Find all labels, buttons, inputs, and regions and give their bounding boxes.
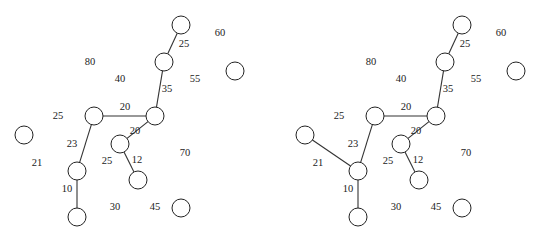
weight-label: 21: [313, 157, 324, 168]
weight-label: 55: [471, 73, 482, 84]
weight-label: 12: [413, 154, 424, 165]
weight-label: 35: [443, 83, 454, 94]
weight-label: 60: [496, 27, 507, 38]
background: [0, 0, 534, 235]
node-E: [15, 126, 33, 144]
weight-label: 20: [411, 125, 422, 136]
node-J: [172, 199, 190, 217]
weight-label: 55: [190, 73, 201, 84]
node-D: [85, 107, 103, 125]
weight-label: 25: [460, 38, 471, 49]
weight-label: 25: [383, 155, 394, 166]
weight-label: 30: [110, 201, 121, 212]
weight-label: 23: [348, 138, 359, 149]
weight-label: 40: [396, 73, 407, 84]
node-I: [349, 208, 367, 226]
weight-label: 20: [120, 101, 131, 112]
node-B: [436, 53, 454, 71]
weight-label: 70: [461, 147, 472, 158]
node-I: [68, 208, 86, 226]
weight-label: 10: [62, 183, 73, 194]
weight-label: 45: [150, 201, 161, 212]
weight-label: 21: [32, 157, 43, 168]
weight-label: 23: [67, 138, 78, 149]
node-G: [68, 162, 86, 180]
node-J: [453, 199, 471, 217]
node-F: [392, 135, 410, 153]
node-H: [129, 171, 147, 189]
node-C: [427, 107, 445, 125]
weight-label: 10: [343, 183, 354, 194]
weight-label: 25: [179, 38, 190, 49]
weight-label: 30: [391, 201, 402, 212]
node-B: [155, 53, 173, 71]
graph-figure: 6025804055352025202321702512103045 60258…: [0, 0, 534, 235]
node-F: [111, 135, 129, 153]
weight-label: 35: [162, 83, 173, 94]
node-D: [366, 107, 384, 125]
node-C: [146, 107, 164, 125]
weight-label: 80: [85, 56, 96, 67]
node-E: [296, 126, 314, 144]
weight-label: 70: [180, 147, 191, 158]
node-G: [349, 162, 367, 180]
node-A: [453, 16, 471, 34]
weight-label: 60: [215, 27, 226, 38]
weight-label: 25: [334, 110, 345, 121]
node-A: [172, 16, 190, 34]
weight-label: 20: [401, 101, 412, 112]
weight-label: 80: [366, 56, 377, 67]
node-H: [410, 171, 428, 189]
weight-label: 12: [132, 154, 143, 165]
node-R: [226, 62, 244, 80]
node-R: [507, 62, 525, 80]
weight-label: 40: [115, 73, 126, 84]
weight-label: 25: [53, 110, 64, 121]
weight-label: 25: [102, 155, 113, 166]
weight-label: 45: [431, 201, 442, 212]
weight-label: 20: [130, 125, 141, 136]
